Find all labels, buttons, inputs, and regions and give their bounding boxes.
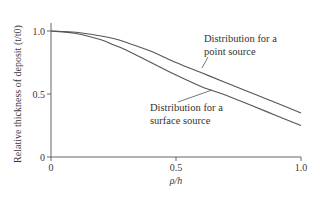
y-axis-label: Relative thickness of deposit (t/t0) [12, 25, 24, 163]
annotation-point-source-line2: point source [204, 46, 256, 57]
x-tick-label: 0 [49, 162, 54, 173]
leader-line-point-source [202, 57, 208, 68]
leader-line-surface-source [178, 90, 212, 102]
annotation-point-source-line1: Distribution for a [204, 33, 277, 44]
annotation-surface-source-line2: surface source [150, 115, 211, 126]
y-tick-label: 0 [40, 152, 45, 163]
annotation-point-source: Distribution for a point source [204, 33, 280, 57]
x-tick-label: 1.0 [295, 162, 308, 173]
x-tick-label: 0.5 [170, 162, 183, 173]
x-axis-label: ρ/h [169, 175, 183, 186]
annotation-surface-source: Distribution for a surface source [150, 102, 226, 126]
axes: 00.51.000.51.0 [33, 23, 308, 173]
annotation-surface-source-line1: Distribution for a [150, 102, 223, 113]
chart: 00.51.000.51.0 Distribution for a point … [0, 0, 320, 198]
y-tick-label: 1.0 [33, 26, 46, 37]
y-tick-label: 0.5 [33, 89, 46, 100]
annotations: Distribution for a point source Distribu… [150, 33, 280, 126]
